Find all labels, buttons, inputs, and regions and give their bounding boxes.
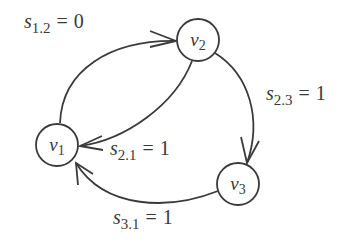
edge-label-s31: s3.1=1	[113, 206, 173, 232]
node-v2: v2	[177, 19, 219, 61]
node-v1: v1	[36, 124, 78, 166]
edge-v3-v1	[76, 163, 218, 203]
edge-v1-v2	[60, 31, 176, 123]
edge-label-s23: s2.3=1	[266, 82, 326, 108]
edge-label-s12: s1.2=0	[24, 10, 84, 36]
arrowhead-icon	[150, 31, 176, 47]
graph-diagram: v1 v2 v3 s1.2=0 s2.3=1 s2.1=1 s3.1=1	[0, 0, 360, 246]
edge-label-s21: s2.1=1	[110, 137, 170, 163]
edge-v2-v3	[215, 53, 259, 163]
node-v3: v3	[217, 163, 259, 205]
edge-v2-v1	[80, 61, 192, 150]
arrowhead-icon	[80, 136, 103, 150]
